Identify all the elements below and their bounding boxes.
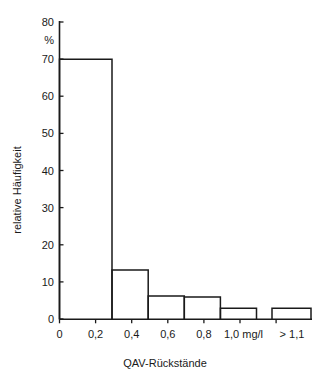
y-tick-label-10: 10 (42, 276, 54, 288)
histogram-figure: 80 70 60 50 40 30 20 10 0 % relative Häu… (0, 0, 327, 378)
y-tick-label-20: 20 (42, 239, 54, 251)
y-axis-tick-labels: 80 70 60 50 40 30 20 10 0 (42, 16, 54, 325)
y-tick-label-70: 70 (42, 53, 54, 65)
y-axis-unit-label: % (44, 34, 54, 46)
x-tick-label-1-0: 1,0 mg/l (224, 328, 263, 340)
chart-canvas: 80 70 60 50 40 30 20 10 0 % relative Häu… (0, 0, 327, 378)
y-tick-label-80: 80 (42, 16, 54, 28)
x-tick-label-0-6: 0,6 (160, 328, 175, 340)
y-tick-label-40: 40 (42, 165, 54, 177)
y-tick-label-60: 60 (42, 90, 54, 102)
x-tick-label-0-2: 0,2 (88, 328, 103, 340)
y-tick-label-0: 0 (48, 313, 54, 325)
x-tick-label-0: 0 (56, 328, 62, 340)
x-axis-title: QAV-Rückstände (123, 357, 207, 369)
x-tick-label-0-8: 0,8 (196, 328, 211, 340)
y-axis-title: relative Häufigkeit (11, 146, 23, 233)
x-tick-label-gt-1-1: > 1,1 (280, 328, 305, 340)
y-tick-label-50: 50 (42, 127, 54, 139)
y-tick-label-30: 30 (42, 202, 54, 214)
x-tick-label-0-4: 0,4 (124, 328, 139, 340)
